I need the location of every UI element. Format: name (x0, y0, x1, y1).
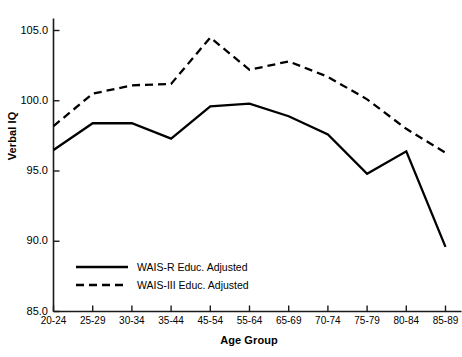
series-lines (54, 38, 446, 247)
legend-label-1: WAIS-R Educ. Adjusted (137, 261, 248, 273)
y-tick-label: 95.0 (4, 165, 48, 176)
x-tick-label: 75-79 (345, 315, 389, 326)
series-line-2 (54, 38, 446, 153)
x-tick-label: 25-29 (71, 315, 115, 326)
y-tick-label: 90.0 (4, 235, 48, 246)
verbal-iq-line-chart: Verbal IQ Age Group 85.090.095.0100.0105… (0, 0, 462, 357)
series-line-1 (54, 104, 446, 247)
plot-area (0, 0, 462, 357)
x-tick-label: 55-64 (228, 315, 272, 326)
legend-swatches (76, 267, 128, 285)
x-axis-title: Age Group (53, 334, 445, 346)
tick-marks (54, 31, 446, 312)
x-tick-label: 70-74 (306, 315, 350, 326)
x-tick-label: 45-54 (188, 315, 232, 326)
x-tick-label: 30-34 (110, 315, 154, 326)
legend-label-2: WAIS-III Educ. Adjusted (137, 279, 249, 291)
x-tick-label: 65-69 (267, 315, 311, 326)
y-tick-label: 100.0 (4, 95, 48, 106)
y-tick-label: 105.0 (4, 25, 48, 36)
x-tick-label: 85-89 (424, 315, 462, 326)
x-tick-label: 35-44 (149, 315, 193, 326)
x-tick-label: 80-84 (384, 315, 428, 326)
x-tick-label: 20-24 (32, 315, 76, 326)
